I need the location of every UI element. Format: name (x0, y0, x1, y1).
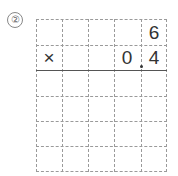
multiplier-digit: 4 (141, 45, 167, 70)
multiply-operator: × (36, 45, 62, 70)
answer-separator-line (36, 70, 167, 71)
problem-number-label: ② (7, 12, 23, 28)
grid-line (36, 171, 167, 172)
multiplier-digit: 0 (114, 45, 140, 70)
grid-line (36, 121, 167, 122)
multiplication-grid: 6 × 0 4 (36, 19, 167, 172)
grid-line (36, 146, 167, 147)
grid-line (36, 96, 167, 97)
multiplicand-digit: 6 (141, 20, 167, 45)
